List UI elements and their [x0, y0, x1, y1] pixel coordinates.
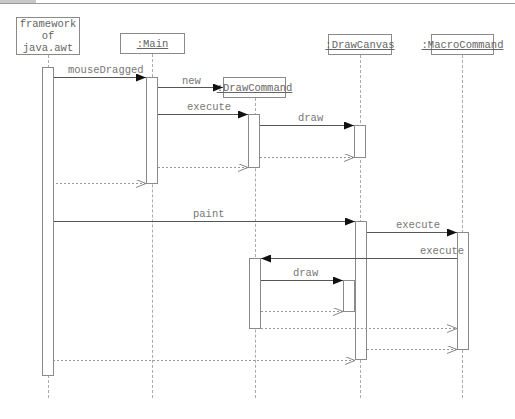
message-label-paint: paint — [193, 208, 225, 220]
message-label-execute-2: execute — [396, 219, 440, 231]
message-arrows — [0, 0, 515, 419]
message-label-draw-2: draw — [293, 267, 318, 279]
message-label-execute-1: execute — [187, 101, 231, 113]
message-label-execute-3: execute — [420, 245, 464, 257]
message-label-mousedragged: mouseDragged — [68, 64, 144, 76]
message-label-draw-1: draw — [298, 112, 323, 124]
message-label-new: new — [182, 75, 201, 87]
